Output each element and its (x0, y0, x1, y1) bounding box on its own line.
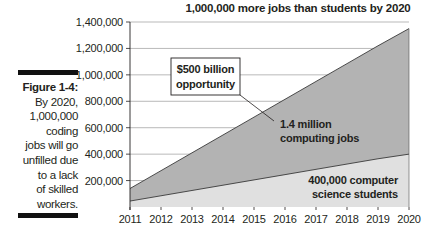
y-tick-label: 400,000 (85, 148, 123, 160)
x-tick-label: 2019 (366, 213, 389, 225)
y-tick-label: 800,000 (85, 95, 123, 107)
annotation-text: $500 billion (177, 63, 235, 75)
x-tick-label: 2012 (149, 213, 172, 225)
x-tick-label: 2014 (211, 213, 234, 225)
annotation-text: science students (312, 188, 398, 200)
y-tick-label: 200,000 (85, 175, 123, 187)
annotation-text: 1.4 million (280, 118, 332, 130)
annotation-text: opportunity (176, 78, 236, 90)
annotation-opportunity: $500 billion opportunity (171, 58, 274, 121)
x-tick-label: 2015 (242, 213, 265, 225)
x-tick-label: 2016 (273, 213, 296, 225)
y-tick-label: 1,400,000 (76, 16, 123, 28)
annotation-text: computing jobs (280, 132, 359, 144)
chart: 200,000400,000600,000800,0001,000,0001,2… (0, 0, 435, 235)
x-tick-label: 2011 (119, 213, 142, 225)
x-tick-label: 2017 (304, 213, 327, 225)
x-tick-label: 2013 (180, 213, 203, 225)
x-tick-label: 2018 (335, 213, 358, 225)
y-axis-ticks: 200,000400,000600,000800,0001,000,0001,2… (76, 16, 130, 187)
y-tick-label: 1,200,000 (76, 42, 123, 54)
annotation-text: 400,000 computer (308, 174, 399, 186)
y-tick-label: 600,000 (85, 122, 123, 134)
x-tick-label: 2020 (397, 213, 420, 225)
x-axis-ticks: 2011201220132014201520162017201820192020 (119, 207, 421, 225)
y-tick-label: 1,000,000 (76, 69, 123, 81)
